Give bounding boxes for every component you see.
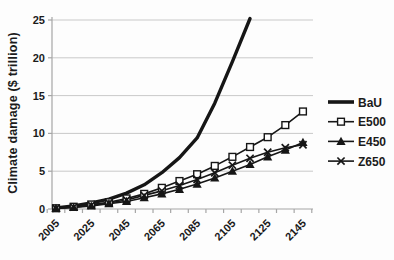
y-tick-label: 5 xyxy=(39,165,45,177)
x-tick-label: 2085 xyxy=(177,217,203,243)
legend-label-bau: BaU xyxy=(358,96,382,110)
y-tick-label: 10 xyxy=(33,127,45,139)
x-tick-label: 2025 xyxy=(71,217,97,243)
open-square-marker xyxy=(264,134,271,141)
y-tick-label: 25 xyxy=(33,14,45,26)
legend-label-e500: E500 xyxy=(358,115,386,129)
x-tick-label: 2065 xyxy=(141,217,167,243)
open-square-marker xyxy=(282,122,289,129)
open-square-marker xyxy=(300,108,307,115)
series-line-bau xyxy=(56,18,250,207)
x-tick-label: 2125 xyxy=(247,217,273,243)
x-tick-label: 2045 xyxy=(106,217,132,243)
x-tick-label: 2105 xyxy=(212,217,238,243)
open-square-marker xyxy=(229,153,236,160)
y-tick-label: 20 xyxy=(33,52,45,64)
legend-label-z650: Z650 xyxy=(358,155,386,169)
climate-damage-chart: Climate damage ($ trillion) 051015202520… xyxy=(0,0,394,260)
x-tick-label: 2145 xyxy=(283,217,309,243)
x-tick-label: 2005 xyxy=(36,217,62,243)
legend-marker-open-square xyxy=(338,118,345,125)
y-axis-title: Climate damage ($ trillion) xyxy=(6,32,20,194)
y-tick-label: 15 xyxy=(33,90,45,102)
plot-svg: 0510152025200520252045206520852105212521… xyxy=(0,0,394,260)
open-square-marker xyxy=(247,144,254,151)
open-square-marker xyxy=(211,163,218,170)
y-tick-label: 0 xyxy=(39,203,45,215)
legend-label-e450: E450 xyxy=(358,135,386,149)
